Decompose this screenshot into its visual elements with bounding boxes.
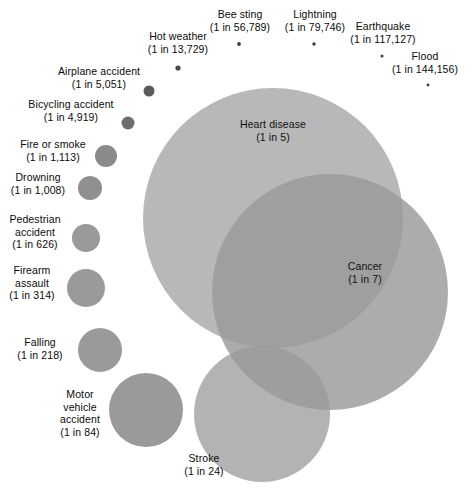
label-odds: (1 in 117,127) <box>334 33 432 46</box>
label-hot-weather: Hot weather (1 in 13,729) <box>131 30 225 55</box>
label-motor-vehicle-accident: Motor vehicle accident (1 in 84) <box>52 388 108 438</box>
label-odds: (1 in 314) <box>2 289 62 302</box>
bubble-lightning <box>312 42 315 45</box>
bubble-bicycling-accident <box>122 117 135 130</box>
label-odds: (1 in 7) <box>333 273 397 286</box>
label-name: Cancer <box>333 260 397 273</box>
label-falling: Falling (1 in 218) <box>8 336 72 361</box>
bubble-drowning <box>78 176 102 200</box>
label-stroke: Stroke (1 in 24) <box>170 452 238 477</box>
label-drowning: Drowning (1 in 1,008) <box>2 171 74 196</box>
label-name-line2: assault <box>2 277 62 290</box>
label-name: Bicycling accident <box>22 98 120 111</box>
label-odds: (1 in 24) <box>170 465 238 478</box>
label-name-line1: Motor <box>52 388 108 401</box>
bubble-bee-sting <box>237 42 241 46</box>
label-name-line1: Pedestrian <box>2 213 68 226</box>
label-name-line2: accident <box>2 226 68 239</box>
label-name-line1: Firearm <box>2 264 62 277</box>
label-name: Drowning <box>2 171 74 184</box>
label-name: Lightning <box>270 8 360 21</box>
label-name: Hot weather <box>131 30 225 43</box>
label-name: Airplane accident <box>52 65 146 78</box>
label-airplane-accident: Airplane accident (1 in 5,051) <box>52 65 146 90</box>
label-odds: (1 in 218) <box>8 349 72 362</box>
label-odds: (1 in 626) <box>2 238 68 251</box>
label-name-line2: vehicle <box>52 401 108 414</box>
label-name: Heart disease <box>223 118 323 131</box>
label-odds: (1 in 84) <box>52 426 108 439</box>
label-firearm-assault: Firearm assault (1 in 314) <box>2 264 62 302</box>
label-odds: (1 in 4,919) <box>22 111 120 124</box>
label-odds: (1 in 1,113) <box>12 151 94 164</box>
bubble-motor-vehicle-accident <box>109 373 183 447</box>
label-odds: (1 in 1,008) <box>2 184 74 197</box>
label-odds: (1 in 5) <box>223 131 323 144</box>
label-odds: (1 in 13,729) <box>131 43 225 56</box>
label-pedestrian-accident: Pedestrian accident (1 in 626) <box>2 213 68 251</box>
label-name: Stroke <box>170 452 238 465</box>
label-earthquake: Earthquake (1 in 117,127) <box>334 20 432 45</box>
bubble-hot-weather <box>175 65 180 70</box>
bubble-firearm-assault <box>67 269 105 307</box>
label-odds: (1 in 144,156) <box>378 63 472 76</box>
bubble-pedestrian-accident <box>72 224 100 252</box>
label-name: Flood <box>378 50 472 63</box>
label-odds: (1 in 5,051) <box>52 78 146 91</box>
label-cancer: Cancer (1 in 7) <box>333 260 397 285</box>
bubble-falling <box>78 328 122 372</box>
label-heart-disease: Heart disease (1 in 5) <box>223 118 323 143</box>
label-name-line3: accident <box>52 413 108 426</box>
bubble-flood <box>427 84 430 87</box>
bubble-fire-or-smoke <box>95 145 117 167</box>
label-name: Earthquake <box>334 20 432 33</box>
label-bicycling-accident: Bicycling accident (1 in 4,919) <box>22 98 120 123</box>
bubble-chart-canvas: Bee sting (1 in 56,789) Lightning (1 in … <box>0 0 472 495</box>
label-name: Falling <box>8 336 72 349</box>
label-flood: Flood (1 in 144,156) <box>378 50 472 75</box>
label-fire-or-smoke: Fire or smoke (1 in 1,113) <box>12 138 94 163</box>
label-name: Fire or smoke <box>12 138 94 151</box>
